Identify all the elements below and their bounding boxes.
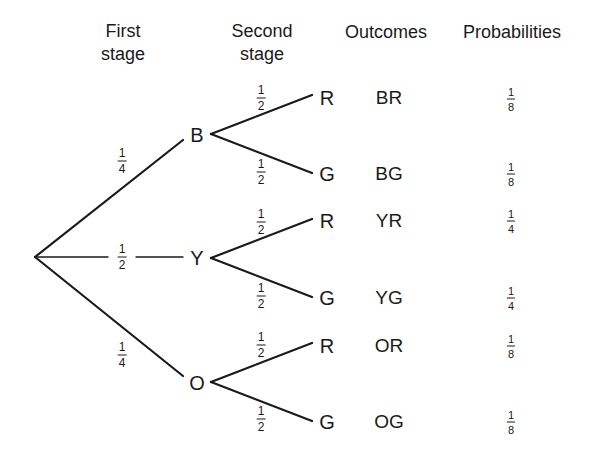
prob-first-y: 12 bbox=[118, 243, 127, 272]
probability-or: 18 bbox=[507, 333, 515, 360]
prob-second-br: 12 bbox=[257, 84, 266, 113]
header-second-stage: Second stage bbox=[231, 20, 292, 66]
prob-second-bg: 12 bbox=[257, 158, 266, 187]
outcome-or: OR bbox=[375, 335, 404, 357]
header-probabilities: Probabilities bbox=[463, 21, 561, 44]
prob-second-yr: 12 bbox=[257, 208, 266, 237]
probability-bg: 18 bbox=[507, 161, 515, 188]
probability-yg: 14 bbox=[507, 285, 515, 312]
outcome-yr: YR bbox=[376, 210, 402, 232]
node-or-r: R bbox=[320, 335, 334, 358]
tree-branches bbox=[0, 0, 593, 467]
outcome-br: BR bbox=[376, 87, 402, 109]
node-og-g: G bbox=[319, 411, 335, 434]
prob-first-o: 14 bbox=[118, 341, 127, 370]
prob-second-or: 12 bbox=[257, 331, 266, 360]
outcome-og: OG bbox=[374, 411, 404, 433]
node-yg-g: G bbox=[319, 287, 335, 310]
header-first-stage: First stage bbox=[101, 20, 145, 66]
branch-root-to-o bbox=[35, 257, 183, 376]
node-br-r: R bbox=[320, 87, 334, 110]
probability-br: 18 bbox=[507, 86, 515, 113]
prob-first-b: 14 bbox=[118, 147, 127, 176]
header-outcomes: Outcomes bbox=[345, 21, 427, 44]
probability-og: 18 bbox=[507, 409, 515, 436]
node-y: Y bbox=[190, 247, 203, 270]
node-b: B bbox=[190, 124, 203, 147]
node-bg-g: G bbox=[319, 163, 335, 186]
prob-second-yg: 12 bbox=[257, 282, 266, 311]
node-yr-r: R bbox=[320, 210, 334, 233]
outcome-bg: BG bbox=[375, 163, 402, 185]
probability-yr: 14 bbox=[507, 208, 515, 235]
prob-second-og: 12 bbox=[257, 405, 266, 434]
branch-root-to-b bbox=[35, 140, 183, 257]
node-o: O bbox=[189, 372, 205, 395]
outcome-yg: YG bbox=[375, 287, 402, 309]
